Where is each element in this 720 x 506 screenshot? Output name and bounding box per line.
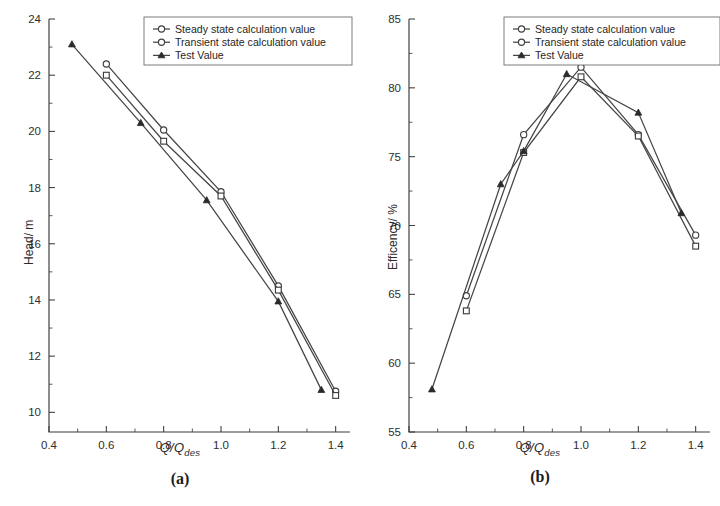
data-point-marker — [635, 109, 642, 115]
y-tick-label: 55 — [388, 426, 401, 438]
y-tick-label: 60 — [388, 357, 401, 369]
caption-a: (a) — [0, 470, 360, 488]
data-point-marker — [578, 74, 584, 80]
y-tick-label: 75 — [388, 151, 401, 163]
data-point-marker — [463, 308, 469, 314]
data-point-marker — [333, 393, 339, 399]
x-axis-title-sub-b: des — [544, 447, 560, 458]
x-axis-title-main-a: Q/Q — [160, 440, 184, 455]
panel-a: 10121416182022240.40.60.81.01.21.4Steady… — [0, 0, 360, 506]
series-line — [72, 44, 321, 390]
series-line — [106, 64, 335, 391]
legend-label: Test Value — [535, 49, 584, 61]
data-point-marker — [161, 127, 167, 133]
legend-marker — [158, 26, 164, 32]
y-tick-label: 80 — [388, 82, 401, 94]
y-tick-label: 24 — [28, 13, 41, 25]
plot-a: 10121416182022240.40.60.81.01.21.4Steady… — [0, 0, 360, 450]
data-point-marker — [161, 138, 167, 144]
x-axis-title-b: Q/Qdes — [360, 440, 720, 458]
data-point-marker — [521, 132, 527, 138]
chart-a-svg: 10121416182022240.40.60.81.01.21.4Steady… — [0, 0, 360, 450]
legend-marker — [158, 39, 164, 45]
legend-label: Steady state calculation value — [535, 23, 675, 35]
y-tick-label: 18 — [28, 182, 41, 194]
legend-label: Transient state calculation value — [175, 36, 326, 48]
y-tick-label: 22 — [28, 69, 41, 81]
data-point-marker — [103, 72, 109, 78]
legend-marker — [518, 26, 524, 32]
data-point-marker — [563, 70, 570, 76]
data-point-marker — [678, 210, 685, 216]
series-line — [466, 77, 695, 311]
data-point-marker — [693, 232, 699, 238]
x-axis-title-a: Q/Qdes — [0, 440, 360, 458]
data-point-marker — [693, 243, 699, 249]
data-point-marker — [635, 133, 641, 139]
legend-label: Transient state calculation value — [535, 36, 686, 48]
plot-b: 556065707580850.40.60.81.01.21.4Steady s… — [360, 0, 720, 450]
y-axis-title-a: Head/ m — [22, 220, 36, 265]
y-tick-label: 10 — [28, 406, 41, 418]
x-axis-title-main-b: Q/Q — [520, 440, 544, 455]
data-point-marker — [318, 386, 325, 392]
chart-b-svg: 556065707580850.40.60.81.01.21.4Steady s… — [360, 0, 720, 450]
data-point-marker — [275, 287, 281, 293]
y-tick-label: 12 — [28, 350, 41, 362]
caption-b: (b) — [360, 468, 720, 486]
figure-container: 10121416182022240.40.60.81.01.21.4Steady… — [0, 0, 720, 506]
legend-label: Test Value — [175, 49, 224, 61]
y-tick-label: 85 — [388, 13, 401, 25]
y-tick-label: 14 — [28, 294, 41, 306]
data-point-marker — [103, 61, 109, 67]
data-point-marker — [218, 193, 224, 199]
y-tick-label: 20 — [28, 125, 41, 137]
data-point-marker — [69, 41, 76, 47]
legend-label: Steady state calculation value — [175, 23, 315, 35]
x-axis-title-sub-a: des — [184, 447, 200, 458]
y-axis-title-b: Efficency/ % — [386, 204, 400, 270]
legend-marker — [518, 39, 524, 45]
panel-b: 556065707580850.40.60.81.01.21.4Steady s… — [360, 0, 720, 506]
data-point-marker — [429, 386, 436, 392]
series-line — [432, 74, 681, 389]
y-tick-label: 65 — [388, 288, 401, 300]
